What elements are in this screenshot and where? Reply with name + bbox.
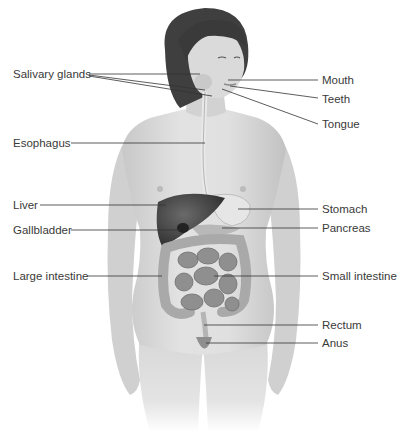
digestive-system-diagram: Salivary glands Esophagus Liver Gallblad… [0, 0, 400, 432]
human-figure-illustration [0, 0, 400, 432]
label-small-intestine: Small intestine [322, 270, 397, 283]
label-anus: Anus [322, 337, 348, 350]
label-salivary-glands: Salivary glands [13, 68, 91, 81]
label-teeth: Teeth [322, 93, 350, 106]
gallbladder-organ [177, 223, 189, 233]
label-gallbladder: Gallbladder [13, 224, 72, 237]
label-esophagus: Esophagus [13, 137, 71, 150]
label-tongue: Tongue [322, 118, 360, 131]
small-intestine-organ [175, 248, 239, 311]
label-pancreas: Pancreas [322, 222, 371, 235]
label-stomach: Stomach [322, 203, 367, 216]
label-liver: Liver [13, 199, 38, 212]
label-rectum: Rectum [322, 319, 362, 332]
label-large-intestine: Large intestine [13, 270, 88, 283]
label-mouth: Mouth [322, 74, 354, 87]
